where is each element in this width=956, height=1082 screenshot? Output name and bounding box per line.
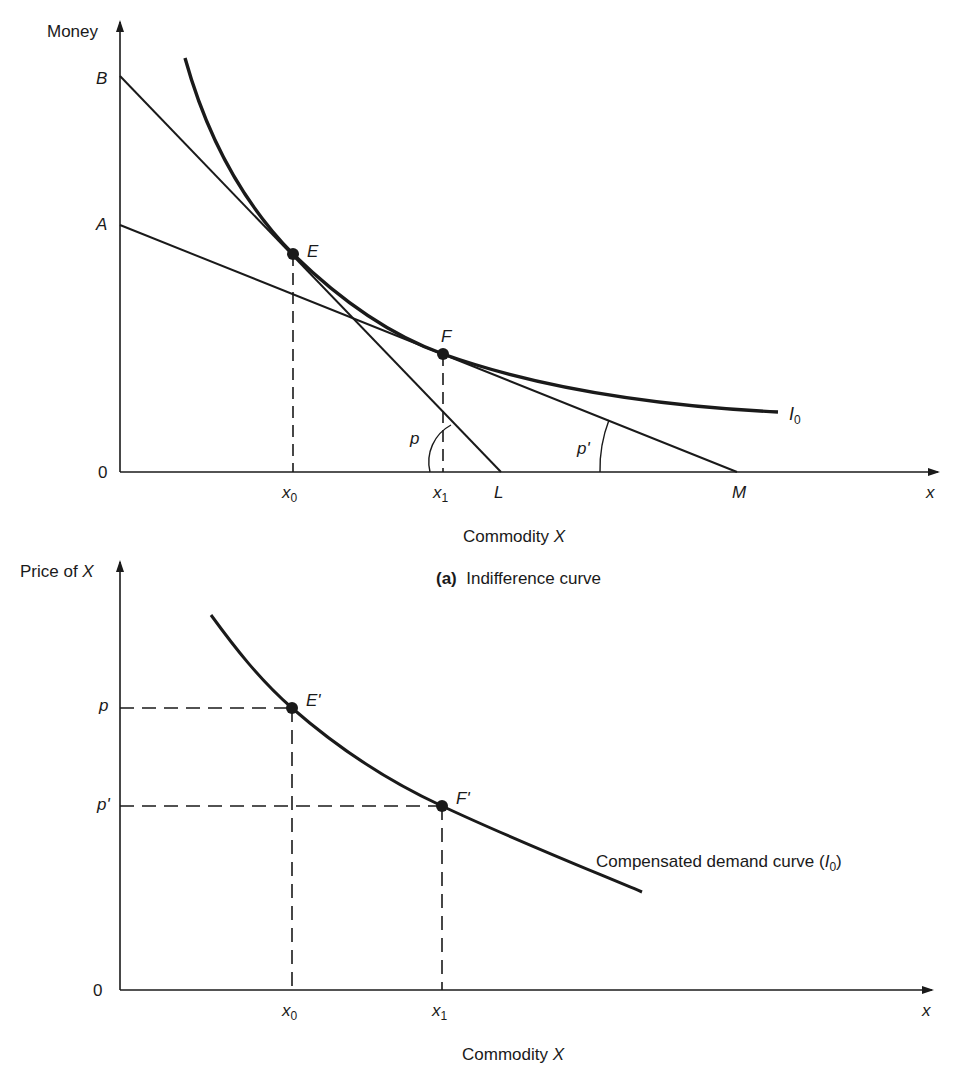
tick-label-B: B: [96, 70, 107, 87]
angle-label-p-prime: p': [577, 440, 590, 457]
point-F: [437, 348, 449, 360]
curve-label-I0-sub: 0: [794, 413, 801, 427]
compensated-demand-curve: [211, 615, 642, 892]
curve-label-text: Compensated demand curve (: [596, 852, 825, 871]
tick-label-L: L: [494, 484, 503, 501]
curve-label-compensated-demand: Compensated demand curve (I0): [596, 853, 842, 873]
curve-label-close: ): [836, 852, 842, 871]
point-label-E: E: [307, 243, 318, 260]
tick-label-p-prime: p': [97, 796, 110, 813]
y-axis-label-price-text: Price of: [20, 562, 82, 581]
x-axis-title-top: Commodity X: [463, 528, 565, 545]
curve-label-I0: I0: [789, 405, 801, 426]
x-axis-end-label-top: x: [926, 484, 935, 501]
point-E-prime: [286, 702, 298, 714]
x-axis-title-bottom-text: Commodity: [462, 1045, 553, 1064]
x-axis-end-label-bottom: x: [922, 1002, 931, 1019]
y-axis-label-money: Money: [47, 23, 98, 40]
tick-label-x0-bottom-sub: 0: [291, 1009, 298, 1023]
tick-label-A: A: [96, 216, 107, 233]
y-axis-label-price-var: X: [82, 562, 93, 581]
panel-b: [120, 562, 932, 990]
panel-caption-a-label: (a): [436, 569, 457, 588]
panel-a: [120, 22, 938, 472]
tick-label-x0-top-main: x: [282, 483, 291, 502]
budget-line-BL: [120, 76, 501, 472]
point-label-F-prime: F': [456, 790, 470, 807]
angle-label-p: p: [410, 430, 419, 447]
tick-label-x0-top-sub: 0: [291, 491, 298, 505]
tick-label-x0-bottom-main: x: [282, 1001, 291, 1020]
tick-label-p: p: [99, 697, 108, 714]
tick-label-x1-top-main: x: [433, 483, 442, 502]
origin-label-bottom: 0: [93, 982, 102, 999]
x-axis-title-bottom: Commodity X: [462, 1046, 564, 1063]
x-axis-title-top-text: Commodity: [463, 527, 554, 546]
tick-label-x1-top-sub: 1: [442, 491, 449, 505]
tick-label-x0-bottom: x0: [282, 1002, 297, 1022]
point-label-E-prime: E': [306, 692, 321, 709]
tick-label-x1-bottom: x1: [432, 1002, 447, 1022]
point-E: [287, 248, 299, 260]
x-axis-title-top-var: X: [554, 527, 565, 546]
indifference-curve-I0: [185, 58, 778, 412]
panel-caption-a: (a) Indifference curve: [436, 570, 601, 587]
point-label-F: F: [441, 328, 451, 345]
origin-label-top: 0: [98, 464, 107, 481]
x-axis-title-bottom-var: X: [553, 1045, 564, 1064]
tick-label-x0-top: x0: [282, 484, 297, 504]
tick-label-x1-bottom-sub: 1: [441, 1009, 448, 1023]
angle-arc-p: [429, 425, 451, 472]
tick-label-M: M: [732, 484, 746, 501]
y-axis-label-price: Price of X: [20, 563, 94, 580]
point-F-prime: [436, 800, 448, 812]
tick-label-x1-top: x1: [433, 484, 448, 504]
panel-caption-a-text: Indifference curve: [466, 569, 601, 588]
tick-label-x1-bottom-main: x: [432, 1001, 441, 1020]
angle-arc-p-prime: [600, 420, 609, 472]
